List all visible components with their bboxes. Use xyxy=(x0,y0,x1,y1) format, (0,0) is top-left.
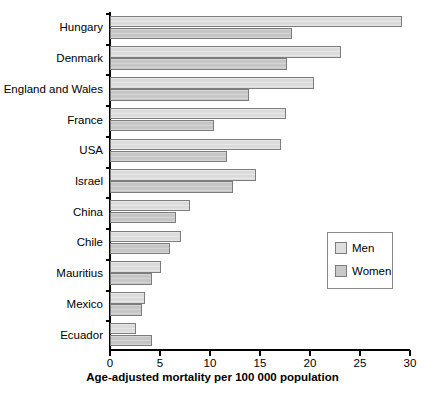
category-row: Denmark xyxy=(110,43,410,74)
x-axis-tick-label: 20 xyxy=(304,356,317,370)
bar-men-china xyxy=(110,200,190,212)
bar-women-chile xyxy=(110,243,170,255)
category-row: Hungary xyxy=(110,12,410,43)
legend-label-men: Men xyxy=(352,242,374,254)
legend-label-women: Women xyxy=(352,265,391,277)
category-label-mexico: Mexico xyxy=(67,298,103,310)
legend-item-women: Women xyxy=(335,265,391,277)
bar-chart: HungaryDenmarkEngland and WalesFranceUSA… xyxy=(0,0,425,398)
x-axis-tick-label: 30 xyxy=(404,356,417,370)
bar-women-france xyxy=(110,120,214,132)
x-axis-tick-label: 0 xyxy=(107,356,113,370)
bar-women-denmark xyxy=(110,58,287,70)
bar-women-england-and-wales xyxy=(110,89,249,101)
bar-men-france xyxy=(110,108,286,120)
legend: Men Women xyxy=(327,232,393,289)
legend-swatch-men xyxy=(335,242,347,254)
category-row: England and Wales xyxy=(110,73,410,104)
legend-item-men: Men xyxy=(335,242,374,254)
bar-men-israel xyxy=(110,169,256,181)
x-axis-title: Age-adjusted mortality per 100 000 popul… xyxy=(0,371,425,383)
category-row: France xyxy=(110,104,410,135)
category-row: Israel xyxy=(110,166,410,197)
category-label-mauritius: Mauritius xyxy=(56,267,103,279)
x-axis-tick-label: 10 xyxy=(204,356,217,370)
category-row: Ecuador xyxy=(110,319,410,350)
bar-men-usa xyxy=(110,139,281,151)
legend-swatch-women xyxy=(335,265,347,277)
bar-women-usa xyxy=(110,151,227,163)
bar-women-mexico xyxy=(110,304,142,316)
plot-area: HungaryDenmarkEngland and WalesFranceUSA… xyxy=(110,12,410,350)
bar-men-mexico xyxy=(110,292,145,304)
category-label-denmark: Denmark xyxy=(56,52,103,64)
category-row: Mexico xyxy=(110,289,410,320)
category-label-hungary: Hungary xyxy=(60,21,103,33)
category-label-chile: Chile xyxy=(77,236,103,248)
category-label-ecuador: Ecuador xyxy=(60,329,103,341)
category-label-england-and-wales: England and Wales xyxy=(4,83,103,95)
bar-women-china xyxy=(110,212,176,224)
bar-women-israel xyxy=(110,181,233,193)
bar-women-mauritius xyxy=(110,273,152,285)
x-axis-tick-label: 5 xyxy=(157,356,163,370)
x-axis-tick-label: 15 xyxy=(254,356,267,370)
x-axis-tick-label: 25 xyxy=(354,356,367,370)
category-row: USA xyxy=(110,135,410,166)
category-row: China xyxy=(110,196,410,227)
category-label-usa: USA xyxy=(79,144,103,156)
bar-men-chile xyxy=(110,231,181,243)
bar-men-mauritius xyxy=(110,261,161,273)
category-label-china: China xyxy=(73,206,103,218)
bar-men-denmark xyxy=(110,46,341,58)
category-label-france: France xyxy=(67,114,103,126)
bar-women-hungary xyxy=(110,28,292,40)
bar-men-ecuador xyxy=(110,323,136,335)
category-label-israel: Israel xyxy=(75,175,103,187)
bar-women-ecuador xyxy=(110,335,152,347)
bar-men-england-and-wales xyxy=(110,77,314,89)
bar-men-hungary xyxy=(110,16,402,28)
